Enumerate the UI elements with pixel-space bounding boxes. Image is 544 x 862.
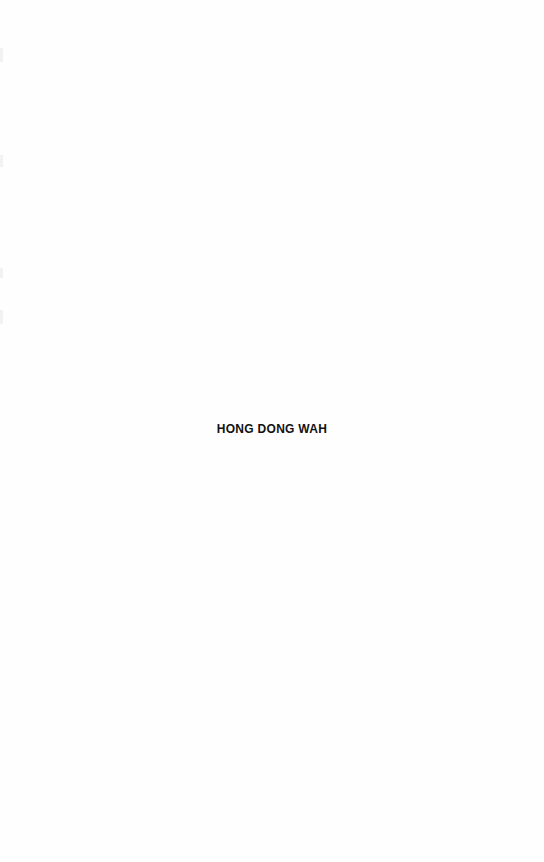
page-title: HONG DONG WAH	[0, 421, 544, 437]
scan-artifact	[0, 48, 3, 62]
document-page: HONG DONG WAH	[0, 0, 544, 862]
scan-artifact	[0, 155, 3, 167]
scan-artifact	[0, 310, 3, 324]
scan-artifact	[0, 268, 3, 278]
